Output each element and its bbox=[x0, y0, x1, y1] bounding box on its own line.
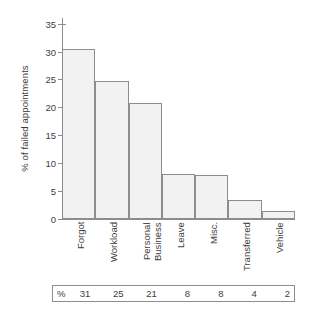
y-tick-label: 5 bbox=[51, 186, 56, 197]
bar-workload bbox=[95, 81, 128, 219]
x-axis-line bbox=[62, 219, 295, 220]
y-tick-label: 0 bbox=[51, 214, 56, 225]
data-table-value-misc.: 8 bbox=[196, 286, 223, 301]
x-category-label-line: Business bbox=[153, 222, 164, 261]
plot-area: 05101520253035 bbox=[62, 18, 295, 220]
y-tick-mark bbox=[58, 24, 66, 25]
y-tick-label: 30 bbox=[45, 46, 56, 57]
y-tick-label: 25 bbox=[45, 74, 56, 85]
data-table-value-workload: 25 bbox=[96, 286, 123, 301]
x-axis-category-labels: ForgotWorkloadPersonalBusinessLeaveMisc.… bbox=[62, 222, 295, 280]
bar-vehicle bbox=[262, 211, 295, 219]
data-table-value-forgot: 31 bbox=[63, 286, 90, 301]
y-axis-title: % of failed appointments bbox=[19, 34, 30, 204]
x-category-label-line: Forgot bbox=[76, 222, 87, 249]
bar-forgot bbox=[62, 49, 95, 219]
x-category-label-line: Transferred bbox=[242, 222, 253, 271]
bar-transferred bbox=[228, 200, 261, 219]
y-tick-label: 15 bbox=[45, 130, 56, 141]
bar-misc. bbox=[195, 175, 228, 219]
y-tick-label: 35 bbox=[45, 18, 56, 29]
x-category-label-line: Workload bbox=[109, 222, 120, 262]
data-table-value-vehicle: 2 bbox=[263, 286, 290, 301]
data-table-value-personal-business: 21 bbox=[130, 286, 157, 301]
bar-personal-business bbox=[129, 103, 162, 219]
bar-leave bbox=[162, 174, 195, 219]
x-category-label-line: Misc. bbox=[209, 222, 220, 244]
data-table-value-leave: 8 bbox=[163, 286, 190, 301]
data-value-table: % 3125218842 bbox=[52, 285, 295, 302]
x-category-label-line: Vehicle bbox=[275, 222, 286, 253]
y-tick-label: 10 bbox=[45, 158, 56, 169]
x-category-label-line: Leave bbox=[176, 222, 187, 248]
y-tick-label: 20 bbox=[45, 102, 56, 113]
y-tick-mark bbox=[58, 219, 66, 220]
chart-figure: % of failed appointments 05101520253035 … bbox=[0, 0, 327, 320]
data-table-value-transferred: 4 bbox=[229, 286, 256, 301]
